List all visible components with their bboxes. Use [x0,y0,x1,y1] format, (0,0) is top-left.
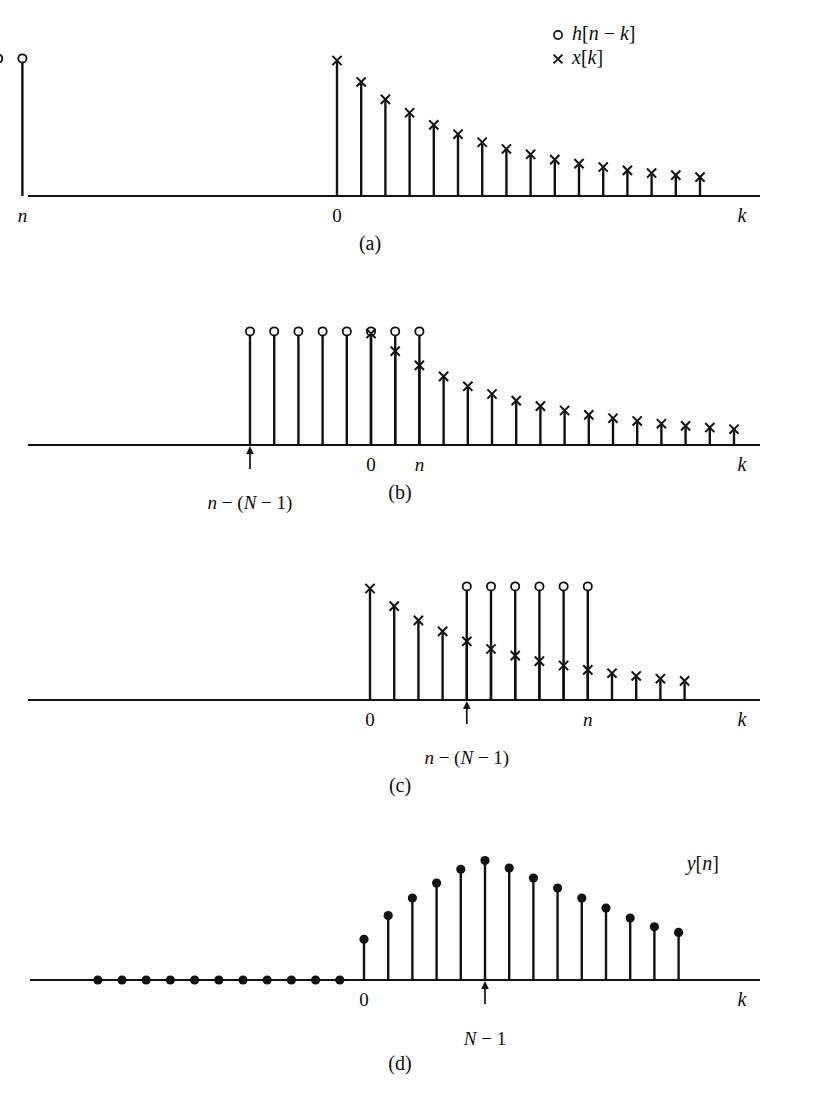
dot-marker [577,893,586,902]
dot-marker [190,975,199,984]
panel-b: n − (N − 1)0nk(b) [0,275,819,540]
dot-marker [359,935,368,944]
series-label-y: y[n] [685,852,719,875]
dot-marker [529,873,538,882]
dot-marker [480,856,489,865]
label-zero: 0 [359,989,369,1010]
dot-marker [384,911,393,920]
dot-marker [117,975,126,984]
circle-marker [511,582,519,590]
panel-b-plot: n − (N − 1)0nk(b) [0,275,819,540]
annotation-arrow [463,701,471,724]
circle-marker [319,327,327,335]
series-dot-d [93,856,683,985]
circle-marker [0,54,2,62]
dot-marker [166,975,175,984]
panel-caption-c: (c) [389,774,411,797]
dot-marker [553,883,562,892]
panel-caption-d: (d) [388,1052,411,1075]
dot-marker [601,903,610,912]
dot-marker [335,975,344,984]
label-n: n [18,205,28,226]
circle-marker [270,327,278,335]
dot-marker [432,878,441,887]
label-k: k [738,708,748,730]
dot-marker [142,975,151,984]
label-k: k [738,988,748,1010]
series-cross-a [332,56,704,196]
circle-marker [560,582,568,590]
label-k: k [738,453,748,475]
dot-marker [311,975,320,984]
arrow-label-c: n − (N − 1) [424,747,509,769]
circle-marker [535,582,543,590]
circle-marker [415,327,423,335]
circle-marker [487,582,495,590]
dot-marker [214,975,223,984]
circle-marker [294,327,302,335]
arrow-label-b: n − (N − 1) [208,492,293,514]
label-k: k [738,204,748,226]
panel-c-plot: 0n − (N − 1)nk(c) [0,530,819,800]
annotation-arrow [481,981,489,1004]
legend-label: h[n − k] [572,22,636,44]
series-cross-b [366,329,738,445]
panel-caption-b: (b) [388,481,411,504]
panel-a-plot: n − (N − 1)n0k(a)h[n − k]x[k] [0,0,819,280]
panel-d-plot: 0N − 1y[n]k(d) [0,795,819,1097]
label-zero: 0 [366,454,376,475]
circle-marker [554,31,562,39]
panel-d: 0N − 1y[n]k(d) [0,795,819,1097]
figure-root: n − (N − 1)n0k(a)h[n − k]x[k] n − (N − 1… [0,0,819,1097]
series-circle-a [0,54,27,196]
legend-label: x[k] [571,46,603,68]
panel-c: 0n − (N − 1)nk(c) [0,530,819,800]
series-cross-c [365,584,689,700]
dot-marker [674,928,683,937]
circle-marker [391,327,399,335]
panel-a: n − (N − 1)n0k(a)h[n − k]x[k] [0,0,819,280]
circle-marker [343,327,351,335]
label-zero: 0 [332,205,342,226]
dot-marker [650,922,659,931]
circle-marker [463,582,471,590]
panel-caption-a: (a) [359,232,381,255]
series-circle-c [463,582,592,700]
dot-marker [287,975,296,984]
dot-marker [93,975,102,984]
label-n: n [583,709,593,730]
dot-marker [263,975,272,984]
cross-marker [554,55,563,64]
label-n: n [415,454,425,475]
annotation-arrow [246,446,254,469]
dot-marker [505,863,514,872]
dot-marker [238,975,247,984]
dot-marker [626,913,635,922]
legend: h[n − k]x[k] [554,22,636,68]
circle-marker [584,582,592,590]
legend-item-x: x[k] [554,46,604,68]
arrow-label-d: N − 1 [463,1028,506,1049]
label-zero: 0 [365,709,375,730]
series-circle-b [246,327,424,445]
dot-marker [408,893,417,902]
dot-marker [456,865,465,874]
circle-marker [18,54,26,62]
circle-marker [246,327,254,335]
legend-item-h: h[n − k] [554,22,636,44]
